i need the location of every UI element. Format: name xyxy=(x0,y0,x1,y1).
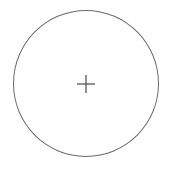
add-button-label: Add xyxy=(14,11,15,12)
plus-icon xyxy=(77,75,95,93)
